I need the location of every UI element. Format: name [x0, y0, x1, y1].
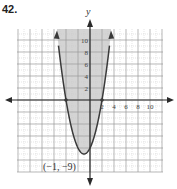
y-tick-label: 8 [85, 49, 89, 57]
x-intercept-point [64, 98, 68, 102]
y-tick-label: 10 [81, 37, 89, 45]
y-tick-label: 6 [85, 61, 89, 69]
x-tick-label: 4 [112, 103, 116, 111]
x-tick-label: 6 [124, 103, 128, 111]
vertex-label: (−1, −9) [43, 161, 76, 173]
y-axis-down-arrow-icon [87, 178, 93, 186]
x-intercept-point [100, 98, 104, 102]
x-axis-right-arrow-icon [167, 97, 174, 103]
y-axis-up-arrow-icon [87, 19, 93, 27]
y-tick-label: 2 [85, 85, 89, 93]
x-tick-label: 10 [147, 103, 155, 111]
graph: 246810246810 y (−1, −9) [0, 0, 177, 189]
y-tick-label: 4 [85, 73, 89, 81]
x-tick-label: 2 [100, 103, 104, 111]
y-axis-label: y [85, 6, 91, 17]
x-tick-label: 8 [136, 103, 140, 111]
x-axis-left-arrow-icon [5, 97, 12, 103]
